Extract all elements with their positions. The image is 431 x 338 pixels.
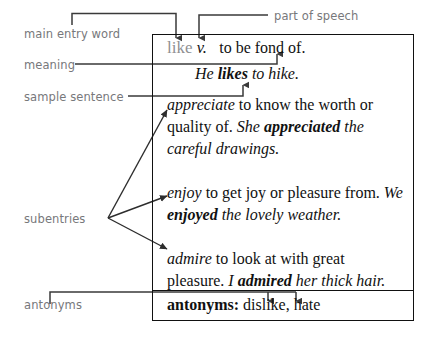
subentry-example-bold: appreciated — [264, 118, 340, 135]
subentry-definition: to get joy or pleasure from. — [202, 184, 384, 201]
subentry-example-pre: We — [384, 184, 403, 201]
subentry-term: appreciate — [167, 96, 235, 113]
dictionary-entry-box: like v. to be fond of. He likes to hike.… — [152, 34, 414, 321]
sample-post: to hike. — [248, 65, 299, 82]
sample-pre: He — [195, 65, 218, 82]
subentry-enjoy: enjoy to get joy or pleasure from. We en… — [153, 182, 413, 226]
label-sample-sentence: sample sentence — [24, 90, 124, 104]
label-antonyms: antonyms — [24, 298, 82, 312]
label-main-entry-word: main entry word — [24, 27, 120, 41]
sample-sentence-row: He likes to hike. — [153, 63, 413, 91]
antonyms-values: dislike, hate — [239, 296, 320, 313]
meaning-rest-text: be fond of. — [232, 39, 306, 56]
subentry-example-post: her thick hair. — [292, 272, 385, 289]
subentry-example-pre: She — [237, 118, 264, 135]
subentry-example-bold: enjoyed — [167, 206, 218, 223]
sample-bold: likes — [218, 65, 248, 82]
subentry-example-bold: admired — [238, 272, 292, 289]
part-of-speech-text: v. — [197, 38, 207, 57]
headword-text: like — [167, 38, 193, 57]
antonyms-row: antonyms: dislike, hate — [153, 291, 413, 314]
antonyms-label: antonyms: — [167, 296, 239, 313]
subentry-appreciate: appreciate to know the worth or quality … — [153, 94, 413, 160]
subentry-example-pre: I — [228, 272, 237, 289]
label-part-of-speech: part of speech — [274, 9, 358, 23]
diagram-canvas: main entry word part of speech meaning s… — [0, 0, 431, 338]
meaning-italic-text: to — [219, 39, 231, 56]
label-meaning: meaning — [24, 58, 75, 72]
label-subentries: subentries — [24, 212, 85, 226]
subentry-term: admire — [167, 250, 212, 267]
subentry-example-post: the lovely weather. — [218, 206, 342, 223]
subentry-term: enjoy — [167, 184, 202, 201]
headword-row: like v. to be fond of. — [153, 35, 413, 63]
subentry-admire: admire to look at with great pleasure. I… — [153, 248, 413, 292]
